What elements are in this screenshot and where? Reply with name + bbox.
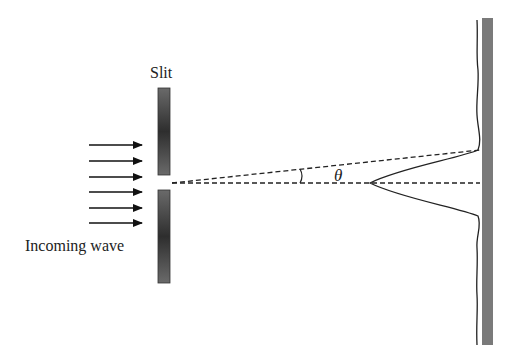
slit-barrier	[158, 88, 170, 283]
incoming-wave-label: Incoming wave	[25, 237, 124, 255]
slit-lower-bar	[158, 190, 170, 283]
slit-label: Slit	[150, 64, 173, 81]
ray-lines	[172, 150, 480, 183]
detection-screen	[482, 18, 493, 345]
angle-arc	[300, 169, 302, 183]
theta-label: θ	[334, 166, 342, 185]
slit-upper-bar	[158, 88, 170, 175]
angled-ray-line	[172, 150, 480, 183]
incoming-wave-arrows	[89, 145, 142, 223]
diffraction-diagram: Slit Incoming wave θ	[0, 0, 511, 364]
